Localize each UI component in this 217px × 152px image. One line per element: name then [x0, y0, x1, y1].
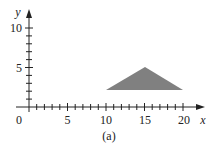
x-axis-label: x [199, 113, 206, 127]
x-tick-label-0: 0 [16, 113, 22, 127]
figure-caption: (a) [102, 129, 115, 143]
x-tick-label-15: 15 [139, 113, 151, 127]
chart-canvas: 0 5 10 15 20 10 5 x y (a) [0, 0, 217, 152]
y-tick-label-10: 10 [10, 21, 22, 35]
y-tick-label-5: 5 [16, 61, 22, 75]
x-tick-label-10: 10 [100, 113, 112, 127]
x-tick-label-20: 20 [178, 113, 190, 127]
triangle-region [106, 67, 183, 90]
x-tick-label-5: 5 [65, 113, 71, 127]
x-axis-arrow-icon [196, 104, 205, 110]
y-axis-arrow-icon [26, 9, 32, 18]
y-axis-label: y [14, 5, 21, 19]
